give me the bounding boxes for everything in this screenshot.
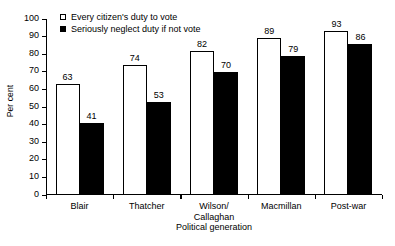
x-axis-tick-mark — [382, 195, 383, 199]
legend-item-label: Seriously neglect duty if not vote — [71, 24, 201, 34]
bar-value-label: 74 — [117, 53, 153, 63]
plot-area: 63417453827089799386 — [46, 19, 382, 195]
bar-value-label: 86 — [342, 32, 378, 42]
bar-value-label: 89 — [251, 26, 287, 36]
y-axis-tick-label: 30 — [29, 136, 39, 146]
open-square-icon — [60, 14, 66, 20]
y-axis-tick-label: 80 — [29, 48, 39, 58]
x-axis-tick-mark — [113, 195, 114, 199]
bar-value-label: 53 — [141, 90, 177, 100]
bar — [324, 31, 348, 195]
bar — [147, 102, 171, 195]
y-axis-tick-label: 50 — [29, 101, 39, 111]
x-axis-category-label: Post-war — [315, 201, 382, 212]
bar-value-label: 70 — [208, 60, 244, 70]
y-axis-tick-label: 20 — [29, 153, 39, 163]
bar — [257, 38, 281, 195]
bar — [80, 123, 104, 195]
bar-value-label: 63 — [50, 72, 86, 82]
bar-chart: Per cent 0102030405060708090100 63417453… — [0, 0, 395, 246]
legend-item[interactable]: Seriously neglect duty if not vote — [60, 23, 201, 34]
y-axis-tick-label: 40 — [29, 118, 39, 128]
y-axis-title: Per cent — [5, 71, 15, 131]
x-axis-category-label: Blair — [46, 201, 113, 212]
y-axis-tick-label: 90 — [29, 30, 39, 40]
x-axis-category-label: Thatcher — [113, 201, 180, 212]
bar — [348, 44, 372, 195]
bar-value-label: 82 — [184, 39, 220, 49]
filled-square-icon — [60, 26, 66, 32]
bar — [214, 72, 238, 195]
bar — [56, 84, 80, 195]
x-axis-category-label: Wilson/ Callaghan — [180, 201, 247, 222]
x-axis-tick-mark — [180, 195, 181, 199]
x-axis-tick-mark — [248, 195, 249, 199]
legend-item[interactable]: Every citizen's duty to vote — [60, 11, 201, 22]
x-axis-category-label: Macmillan — [248, 201, 315, 212]
bar-value-label: 41 — [74, 111, 110, 121]
bar-value-label: 93 — [318, 19, 354, 29]
legend: Every citizen's duty to vote Seriously n… — [60, 11, 201, 35]
bar — [281, 56, 305, 195]
y-axis-tick-label: 0 — [34, 189, 39, 199]
x-axis-title: Political generation — [46, 222, 382, 232]
y-axis-tick-label: 10 — [29, 171, 39, 181]
bar — [190, 51, 214, 195]
y-axis-tick-label: 60 — [29, 83, 39, 93]
legend-item-label: Every citizen's duty to vote — [71, 12, 177, 22]
y-axis-tick-label: 100 — [24, 13, 39, 23]
bar — [123, 65, 147, 195]
x-axis-tick-mark — [315, 195, 316, 199]
bar-value-label: 79 — [275, 44, 311, 54]
x-axis-tick-mark — [46, 195, 47, 199]
y-axis-tick-label: 70 — [29, 65, 39, 75]
